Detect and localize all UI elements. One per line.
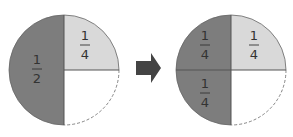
left-quarter-numerator: 1 <box>81 28 89 43</box>
right-top-right-quarter <box>231 15 286 70</box>
left-half-segment <box>9 15 64 125</box>
right-tl-numerator: 1 <box>201 28 209 43</box>
left-quarter-denominator: 4 <box>81 47 89 62</box>
fraction-diagram: 1 2 1 4 1 4 1 4 1 4 <box>0 0 293 137</box>
left-bottom-right-empty <box>64 70 119 125</box>
left-top-right-quarter <box>64 15 119 70</box>
right-tr-denominator: 4 <box>250 47 258 62</box>
right-arrow-icon <box>136 53 161 83</box>
left-circle: 1 2 1 4 <box>9 15 119 125</box>
right-tl-denominator: 4 <box>201 47 209 62</box>
left-half-denominator: 2 <box>33 71 41 86</box>
right-tr-numerator: 1 <box>250 28 258 43</box>
right-circle: 1 4 1 4 1 4 <box>176 15 286 125</box>
right-bottom-right-empty <box>231 70 286 125</box>
right-bl-numerator: 1 <box>201 76 209 91</box>
right-bl-denominator: 4 <box>201 95 209 110</box>
left-half-numerator: 1 <box>33 52 41 67</box>
